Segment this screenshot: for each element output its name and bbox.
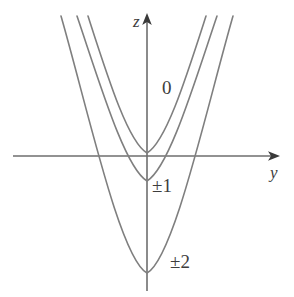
z-axis-label: z xyxy=(133,13,140,30)
curve-label-0: 0 xyxy=(162,78,172,97)
figure-canvas: z y 0 ±1 ±2 xyxy=(0,0,294,297)
curve-label-pm1: ±1 xyxy=(152,176,172,195)
y-axis-label: y xyxy=(270,164,278,181)
curve-label-pm2: ±2 xyxy=(170,252,190,271)
parabola-plot xyxy=(0,0,294,297)
